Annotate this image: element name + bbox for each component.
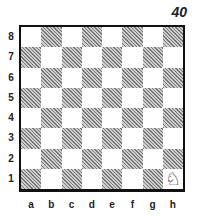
file-label-a: a xyxy=(21,199,41,210)
square-h3 xyxy=(163,128,183,148)
square-g3 xyxy=(143,128,163,148)
square-e3 xyxy=(102,128,122,148)
square-g4 xyxy=(143,108,163,128)
square-e5 xyxy=(102,88,122,108)
square-f6 xyxy=(122,68,142,88)
square-c2 xyxy=(62,149,82,169)
rank-label-2: 2 xyxy=(6,153,16,164)
square-d4 xyxy=(82,108,102,128)
rank-label-5: 5 xyxy=(6,92,16,103)
square-g8 xyxy=(143,27,163,47)
square-a1 xyxy=(21,169,41,189)
square-h5 xyxy=(163,88,183,108)
file-label-g: g xyxy=(143,199,163,210)
square-c1 xyxy=(62,169,82,189)
square-g1 xyxy=(143,169,163,189)
rank-label-1: 1 xyxy=(6,173,16,184)
file-label-f: f xyxy=(122,199,142,210)
square-h4 xyxy=(163,108,183,128)
chess-board: ♘ xyxy=(19,25,185,192)
square-a4 xyxy=(21,108,41,128)
file-label-b: b xyxy=(41,199,61,210)
square-a2 xyxy=(21,149,41,169)
square-d5 xyxy=(82,88,102,108)
square-f3 xyxy=(122,128,142,148)
square-a5 xyxy=(21,88,41,108)
square-h2 xyxy=(163,149,183,169)
square-e6 xyxy=(102,68,122,88)
square-b3 xyxy=(41,128,61,148)
square-h7 xyxy=(163,47,183,67)
square-g6 xyxy=(143,68,163,88)
square-d3 xyxy=(82,128,102,148)
square-c4 xyxy=(62,108,82,128)
square-a6 xyxy=(21,68,41,88)
rank-label-6: 6 xyxy=(6,72,16,83)
square-f4 xyxy=(122,108,142,128)
square-f5 xyxy=(122,88,142,108)
file-label-d: d xyxy=(82,199,102,210)
rank-label-7: 7 xyxy=(6,51,16,62)
square-h8 xyxy=(163,27,183,47)
square-e2 xyxy=(102,149,122,169)
square-a8 xyxy=(21,27,41,47)
square-e8 xyxy=(102,27,122,47)
square-h1: ♘ xyxy=(163,169,183,189)
square-e1 xyxy=(102,169,122,189)
square-g7 xyxy=(143,47,163,67)
square-b5 xyxy=(41,88,61,108)
square-c5 xyxy=(62,88,82,108)
square-c8 xyxy=(62,27,82,47)
white-knight-icon: ♘ xyxy=(163,169,183,189)
file-label-e: e xyxy=(102,199,122,210)
square-b4 xyxy=(41,108,61,128)
square-f1 xyxy=(122,169,142,189)
square-c3 xyxy=(62,128,82,148)
square-c6 xyxy=(62,68,82,88)
square-e4 xyxy=(102,108,122,128)
square-c7 xyxy=(62,47,82,67)
square-b8 xyxy=(41,27,61,47)
square-d2 xyxy=(82,149,102,169)
square-d7 xyxy=(82,47,102,67)
square-f2 xyxy=(122,149,142,169)
square-a3 xyxy=(21,128,41,148)
square-f7 xyxy=(122,47,142,67)
square-h6 xyxy=(163,68,183,88)
rank-label-8: 8 xyxy=(6,31,16,42)
diagram-number: 40 xyxy=(171,4,187,20)
square-d8 xyxy=(82,27,102,47)
file-label-h: h xyxy=(163,199,183,210)
square-d1 xyxy=(82,169,102,189)
square-b6 xyxy=(41,68,61,88)
square-b7 xyxy=(41,47,61,67)
square-a7 xyxy=(21,47,41,67)
rank-label-3: 3 xyxy=(6,132,16,143)
file-label-c: c xyxy=(62,199,82,210)
square-f8 xyxy=(122,27,142,47)
square-b2 xyxy=(41,149,61,169)
rank-label-4: 4 xyxy=(6,112,16,123)
square-g2 xyxy=(143,149,163,169)
square-g5 xyxy=(143,88,163,108)
square-e7 xyxy=(102,47,122,67)
square-b1 xyxy=(41,169,61,189)
square-d6 xyxy=(82,68,102,88)
